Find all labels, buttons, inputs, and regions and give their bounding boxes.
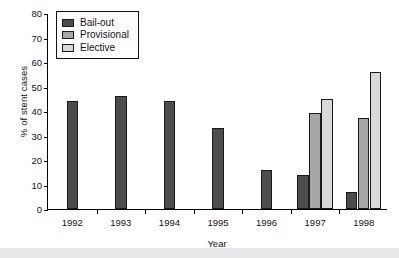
x-tick-mark xyxy=(145,209,146,214)
legend-label-bail-out: Bail-out xyxy=(80,18,114,28)
x-tick-mark xyxy=(339,209,340,214)
bar-elective-1997 xyxy=(321,99,333,209)
legend-item-bail-out: Bail-out xyxy=(62,17,129,29)
bar-elective-1998 xyxy=(370,72,382,209)
x-tick-mark xyxy=(242,209,243,214)
y-tick-label: 30 xyxy=(6,132,48,142)
bar-bail-out-1998 xyxy=(346,192,358,209)
legend-swatch-bail-out xyxy=(62,19,74,27)
y-tick-label: 10 xyxy=(6,181,48,191)
bar-bail-out-1992 xyxy=(67,101,79,209)
y-tick-label: 50 xyxy=(6,83,48,93)
bar-bail-out-1994 xyxy=(164,101,176,209)
y-tick-label: 40 xyxy=(6,107,48,117)
y-tick-label: 80 xyxy=(6,9,48,19)
bar-provisional-1998 xyxy=(358,118,370,209)
y-axis-title: % of stent cases xyxy=(18,37,29,167)
legend-swatch-elective xyxy=(62,44,74,52)
bar-bail-out-1995 xyxy=(212,128,224,209)
bar-provisional-1997 xyxy=(309,113,321,209)
x-tick-mark xyxy=(97,209,98,214)
x-tick-label: 1998 xyxy=(334,217,394,228)
y-tick-label: 20 xyxy=(6,156,48,166)
x-tick-mark xyxy=(194,209,195,214)
legend-label-elective: Elective xyxy=(80,43,115,53)
legend-swatch-provisional xyxy=(62,31,74,39)
y-tick-label: 70 xyxy=(6,34,48,44)
legend-label-provisional: Provisional xyxy=(80,30,129,40)
y-tick-label: 60 xyxy=(6,58,48,68)
x-tick-mark xyxy=(291,209,292,214)
page-bottom-band xyxy=(0,248,399,258)
legend-item-provisional: Provisional xyxy=(62,29,129,41)
legend-item-elective: Elective xyxy=(62,42,129,54)
y-tick-label: 0 xyxy=(6,205,48,215)
chart-figure: % of stent cases 01020304050607080199219… xyxy=(0,0,399,258)
chart-legend: Bail-out Provisional Elective xyxy=(56,11,139,59)
bar-bail-out-1996 xyxy=(261,170,273,209)
bar-bail-out-1993 xyxy=(115,96,127,209)
bar-bail-out-1997 xyxy=(297,175,309,209)
